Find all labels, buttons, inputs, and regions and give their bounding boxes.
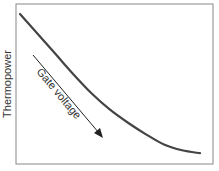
y-axis-label: Thermopower (1, 50, 13, 118)
arrow-head-icon (94, 128, 103, 138)
annotation-gate-voltage: Gate voltage (34, 66, 83, 121)
chart: Thermopower Gate voltage (0, 0, 219, 171)
